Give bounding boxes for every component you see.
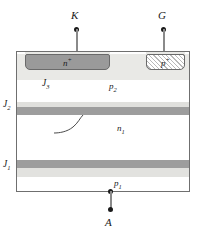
layer-n1 bbox=[17, 115, 189, 160]
region-label-n-plus: n+ bbox=[26, 57, 109, 68]
surface-notch-left bbox=[17, 52, 25, 54]
junction-label-j2: J2 bbox=[3, 100, 10, 111]
surface-notch-right bbox=[185, 52, 189, 54]
region-label-p-plus: p+ bbox=[147, 57, 184, 68]
layer-p1 bbox=[17, 177, 189, 191]
region-label-p2: p2 bbox=[109, 82, 117, 93]
junction-label-j1: J1 bbox=[3, 160, 10, 171]
junction-label-j3: J3 bbox=[42, 79, 49, 90]
region-n-plus: n+ bbox=[25, 54, 110, 70]
device-body: n+ p+ bbox=[16, 51, 190, 192]
terminal-label-anode: A bbox=[105, 217, 112, 228]
terminal-dot-anode bbox=[108, 207, 113, 212]
region-label-p1: p1 bbox=[114, 179, 122, 190]
terminal-label-gate: G bbox=[158, 10, 166, 21]
layer-j1-light-band bbox=[17, 168, 189, 177]
layer-j2-dark-band bbox=[17, 107, 189, 115]
surface-notch-middle bbox=[110, 52, 146, 54]
region-label-n1: n1 bbox=[117, 124, 125, 135]
terminal-label-cathode: K bbox=[71, 10, 78, 21]
region-p-plus: p+ bbox=[146, 54, 185, 70]
thyristor-cross-section-figure: K G n+ p+ p2 n1 p1 bbox=[0, 0, 203, 232]
layer-j1-dark-band bbox=[17, 160, 189, 168]
